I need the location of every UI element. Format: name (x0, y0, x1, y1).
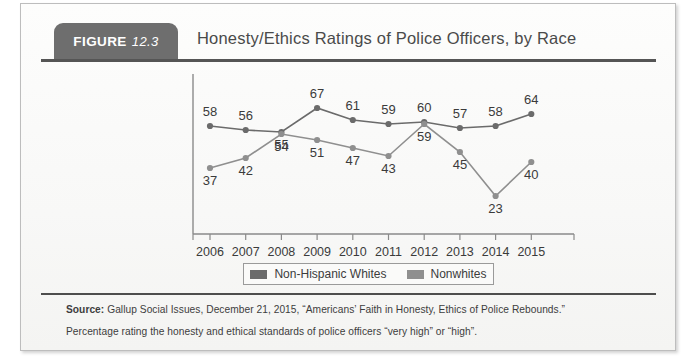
x-axis-tick-label: 2006 (196, 245, 224, 259)
data-point-label: 64 (524, 92, 538, 107)
data-point (493, 123, 499, 129)
legend-entry-nonwhites: Nonwhites (407, 267, 487, 281)
data-point-label: 23 (488, 201, 502, 216)
data-point-label: 45 (453, 157, 467, 172)
data-point-label: 59 (417, 129, 431, 144)
legend-label-whites: Non-Hispanic Whites (274, 267, 386, 281)
series-line (210, 108, 531, 132)
x-axis-tick-label: 2010 (339, 245, 367, 259)
data-point (243, 127, 249, 133)
data-point-label: 60 (417, 100, 431, 115)
data-point-label: 42 (238, 163, 252, 178)
data-point (421, 121, 427, 127)
data-point (457, 149, 463, 155)
data-point (207, 123, 213, 129)
source-label: Source: (66, 304, 104, 315)
figure-badge-number: 12.3 (132, 34, 159, 49)
figure-page: FIGURE 12.3 Honesty/Ethics Ratings of Po… (0, 0, 697, 362)
figure-badge: FIGURE 12.3 (54, 23, 178, 59)
data-point-label: 58 (203, 104, 217, 119)
x-axis-tick-label: 2014 (482, 245, 510, 259)
series-line (210, 124, 531, 196)
x-axis-tick-label: 2015 (517, 245, 545, 259)
data-point (207, 165, 213, 171)
data-point-label: 47 (346, 153, 360, 168)
line-chart: 2006200720082009201020112012201320142015… (21, 62, 677, 292)
data-point-label: 67 (310, 86, 324, 101)
data-point-label: 61 (346, 98, 360, 113)
data-point (350, 145, 356, 151)
footer-divider (41, 293, 656, 295)
x-axis-tick-label: 2008 (267, 245, 295, 259)
legend-swatch-nonwhites (407, 270, 424, 279)
data-point (493, 193, 499, 199)
x-axis-tick-label: 2012 (410, 245, 438, 259)
data-point-label: 58 (488, 104, 502, 119)
data-point-label: 57 (453, 106, 467, 121)
data-point (528, 111, 534, 117)
figure-card: FIGURE 12.3 Honesty/Ethics Ratings of Po… (20, 3, 676, 351)
data-point (314, 105, 320, 111)
data-point (385, 121, 391, 127)
data-point-label: 54 (274, 139, 288, 154)
x-axis-tick-label: 2013 (446, 245, 474, 259)
data-point (528, 159, 534, 165)
percentage-note: Percentage rating the honesty and ethica… (66, 326, 477, 337)
data-point (278, 131, 284, 137)
x-axis-tick-label: 2009 (303, 245, 331, 259)
data-point (350, 117, 356, 123)
data-point-label: 51 (310, 145, 324, 160)
legend-entry-whites: Non-Hispanic Whites (250, 267, 386, 281)
data-point-label: 37 (203, 173, 217, 188)
figure-badge-word: FIGURE (73, 34, 126, 49)
legend-label-nonwhites: Nonwhites (431, 267, 487, 281)
chart-legend: Non-Hispanic Whites Nonwhites (243, 263, 494, 285)
data-point-label: 40 (524, 167, 538, 182)
data-point (385, 153, 391, 159)
source-text: Gallup Social Issues, December 21, 2015,… (104, 304, 565, 315)
legend-swatch-whites (250, 270, 267, 279)
x-axis-tick-label: 2011 (375, 245, 402, 259)
data-point-label: 56 (238, 108, 252, 123)
source-note: Source: Gallup Social Issues, December 2… (66, 304, 565, 315)
data-point-label: 59 (381, 102, 395, 117)
figure-title: Honesty/Ethics Ratings of Police Officer… (197, 29, 576, 48)
chart-canvas: 2006200720082009201020112012201320142015… (21, 62, 677, 292)
data-point (314, 137, 320, 143)
x-axis-tick-label: 2007 (232, 245, 260, 259)
data-point (243, 155, 249, 161)
data-point (457, 125, 463, 131)
data-point-label: 43 (381, 161, 395, 176)
